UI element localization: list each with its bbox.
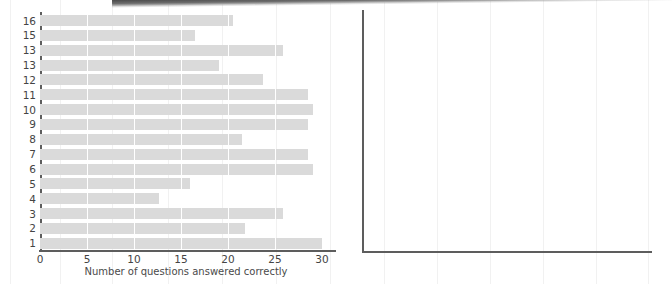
bar[interactable] bbox=[40, 104, 313, 115]
y-tick-label: 6 bbox=[29, 163, 36, 175]
x-tick-label: 5 bbox=[84, 253, 91, 265]
bar[interactable] bbox=[40, 208, 283, 219]
bar-row[interactable]: 4 bbox=[40, 193, 159, 204]
y-tick-label: 7 bbox=[29, 148, 36, 160]
y-tick-label: 8 bbox=[29, 133, 36, 145]
gridline bbox=[87, 12, 88, 250]
bar-row[interactable]: 11 bbox=[40, 89, 308, 100]
x-tick-label: 25 bbox=[268, 253, 281, 265]
y-tick-label: 9 bbox=[29, 118, 36, 130]
y-tick-label: 3 bbox=[29, 207, 36, 219]
bar-row[interactable]: 3 bbox=[40, 208, 283, 219]
x-tick-label: 30 bbox=[315, 253, 328, 265]
bar-row[interactable]: 13 bbox=[40, 60, 219, 71]
bar[interactable] bbox=[40, 134, 242, 145]
bar-row[interactable]: 2 bbox=[40, 223, 245, 234]
y-tick-label: 5 bbox=[29, 178, 36, 190]
bar-row[interactable]: 15 bbox=[40, 30, 195, 41]
bar-row[interactable]: 6 bbox=[40, 164, 313, 175]
gridline bbox=[228, 12, 229, 250]
plot-area: 16151313121110987654321 bbox=[40, 12, 332, 250]
x-axis-line bbox=[39, 250, 336, 252]
bar[interactable] bbox=[40, 223, 245, 234]
y-tick-label: 2 bbox=[29, 222, 36, 234]
bar-row[interactable]: 9 bbox=[40, 119, 308, 130]
bar-row[interactable]: 8 bbox=[40, 134, 242, 145]
bar[interactable] bbox=[40, 45, 283, 56]
x-tick-label: 20 bbox=[221, 253, 234, 265]
bar-row[interactable]: 16 bbox=[40, 15, 233, 26]
bar[interactable] bbox=[40, 178, 190, 189]
gridline bbox=[134, 12, 135, 250]
gridline bbox=[275, 12, 276, 250]
bar-row[interactable]: 5 bbox=[40, 178, 190, 189]
bar-row[interactable]: 13 bbox=[40, 45, 283, 56]
bar-row[interactable]: 10 bbox=[40, 104, 313, 115]
bar[interactable] bbox=[40, 193, 159, 204]
x-tick-label: 0 bbox=[37, 253, 44, 265]
gridline bbox=[181, 12, 182, 250]
y-tick-label: 13 bbox=[23, 59, 36, 71]
y-tick-label: 15 bbox=[23, 29, 36, 41]
empty-plot-frame bbox=[362, 10, 652, 255]
y-tick-label: 13 bbox=[23, 44, 36, 56]
bar[interactable] bbox=[40, 119, 308, 130]
y-tick-label: 12 bbox=[23, 74, 36, 86]
gridline bbox=[322, 12, 323, 250]
bar[interactable] bbox=[40, 149, 308, 160]
x-axis-title: Number of questions answered correctly bbox=[40, 266, 332, 277]
y-tick-label: 1 bbox=[29, 237, 36, 249]
y-tick-label: 4 bbox=[29, 192, 36, 204]
x-tick-label: 15 bbox=[174, 253, 187, 265]
y-tick-label: 10 bbox=[23, 103, 36, 115]
x-tick-label: 10 bbox=[127, 253, 140, 265]
bar[interactable] bbox=[40, 164, 313, 175]
right-y-axis-line bbox=[362, 10, 364, 253]
right-x-axis-line bbox=[362, 251, 652, 253]
bar[interactable] bbox=[40, 30, 195, 41]
bar[interactable] bbox=[40, 60, 219, 71]
y-tick-label: 16 bbox=[23, 14, 36, 26]
bar[interactable] bbox=[40, 15, 233, 26]
bar[interactable] bbox=[40, 89, 308, 100]
bar-chart-individual-children: Individual children 16151313121110987654… bbox=[0, 0, 350, 284]
y-tick-label: 11 bbox=[23, 89, 36, 101]
bar-row[interactable]: 7 bbox=[40, 149, 308, 160]
